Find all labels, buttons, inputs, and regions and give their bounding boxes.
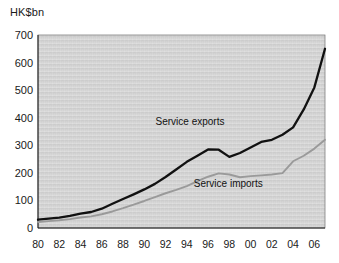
y-axis-tick-labels: 0100200300400500600700 (15, 29, 33, 234)
chart-container: HK$bn 0100200300400500600700 80828486889… (0, 0, 339, 263)
y-axis-tick-label: 0 (27, 222, 33, 234)
y-axis-tick-label: 200 (15, 167, 33, 179)
plot-area-background (38, 35, 325, 228)
y-axis-tick-label: 300 (15, 139, 33, 151)
x-axis-tick-label: 88 (117, 238, 129, 250)
x-axis-tick-label: 86 (96, 238, 108, 250)
x-axis-tick-label: 90 (138, 238, 150, 250)
x-axis-tick-label: 06 (309, 238, 321, 250)
series-annotation-label: Service exports (156, 116, 225, 127)
line-chart-plot: 0100200300400500600700 80828486889092949… (0, 0, 339, 263)
y-axis-tick-label: 600 (15, 57, 33, 69)
x-axis-tick-label: 92 (160, 238, 172, 250)
x-axis-tick-label: 02 (266, 238, 278, 250)
x-axis-tick-label: 04 (287, 238, 299, 250)
x-axis-tick-labels: 8082848688909294969800020406 (32, 238, 320, 250)
y-axis-tick-label: 500 (15, 84, 33, 96)
series-annotation-label: Service imports (194, 178, 263, 189)
x-axis-tick-label: 82 (53, 238, 65, 250)
x-axis-tick-label: 80 (32, 238, 44, 250)
y-axis-tick-label: 700 (15, 29, 33, 41)
x-axis-tick-label: 94 (181, 238, 193, 250)
y-axis-tick-label: 100 (15, 194, 33, 206)
x-axis-tick-label: 00 (245, 238, 257, 250)
y-axis-tick-label: 400 (15, 112, 33, 124)
x-axis-tick-label: 84 (75, 238, 87, 250)
x-axis-tick-label: 98 (223, 238, 235, 250)
x-axis-tick-label: 96 (202, 238, 214, 250)
